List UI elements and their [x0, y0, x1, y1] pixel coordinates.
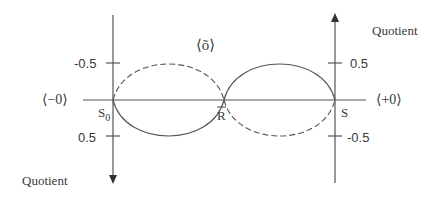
right-lobe-lower-dashed	[224, 100, 335, 136]
point-r: R	[217, 109, 226, 122]
left-axis-title: Quotient	[22, 174, 68, 187]
right-tick-label-top: 0.5	[350, 57, 368, 70]
left-lobe-lower-solid	[113, 100, 224, 136]
right-axis-title: Quotient	[372, 24, 418, 37]
right-lobe-upper-solid	[224, 64, 335, 100]
left-lobe-upper-dashed	[113, 64, 224, 100]
point-s: S	[341, 106, 348, 119]
arrow-down-icon	[109, 175, 117, 184]
arrow-up-icon	[331, 13, 339, 22]
left-end-label: ⟨−0⟩	[42, 93, 68, 107]
center-label: ⟨õ⟩	[196, 38, 215, 53]
point-s0-subscript: 0	[105, 112, 110, 123]
left-tick-label-bottom: 0.5	[78, 131, 96, 144]
right-tick-label-bottom: -0.5	[347, 131, 369, 144]
left-tick-label-top: -0.5	[74, 57, 96, 70]
right-end-label: ⟨+0⟩	[376, 93, 402, 107]
point-s0: S0	[98, 106, 110, 123]
